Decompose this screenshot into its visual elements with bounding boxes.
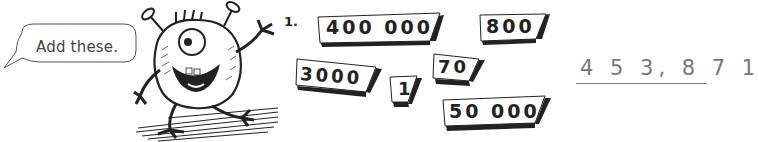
addend-value: 1 (398, 78, 414, 99)
one-eyed-monster-icon (128, 0, 280, 142)
answer-value: 4 5 3, 8 7 1 (580, 56, 758, 80)
speech-bubble-text: Add these. (36, 38, 118, 56)
speech-bubble: Add these. (0, 20, 145, 75)
addend-card-800: 800 (480, 11, 550, 47)
addend-value: 800 (486, 15, 535, 37)
addend-card-50000: 50 000 (443, 94, 551, 132)
problem-number-label: 1. (284, 14, 298, 29)
addend-card-400000: 400 000 (318, 11, 444, 49)
addend-value: 70 (438, 56, 469, 77)
addend-value: 3000 (300, 63, 363, 88)
addend-value: 400 000 (326, 16, 433, 38)
addend-card-3000: 3000 (296, 59, 382, 99)
addend-card-1: 1 (390, 74, 422, 110)
answer-underline (576, 83, 707, 84)
addend-card-70: 70 (433, 54, 485, 88)
addend-value: 50 000 (449, 100, 540, 122)
